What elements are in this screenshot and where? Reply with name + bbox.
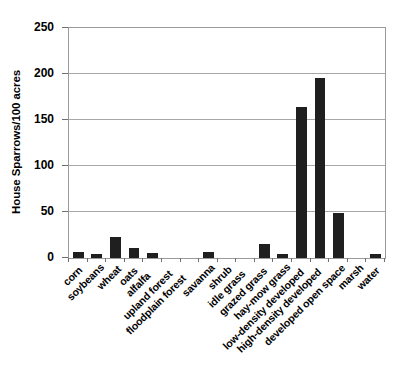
x-axis-labels: cornsoybeanswheatoatsalfalfaupland fores… bbox=[0, 0, 398, 382]
bar-chart: House Sparrows/100 acres 050100150200250… bbox=[0, 0, 398, 382]
